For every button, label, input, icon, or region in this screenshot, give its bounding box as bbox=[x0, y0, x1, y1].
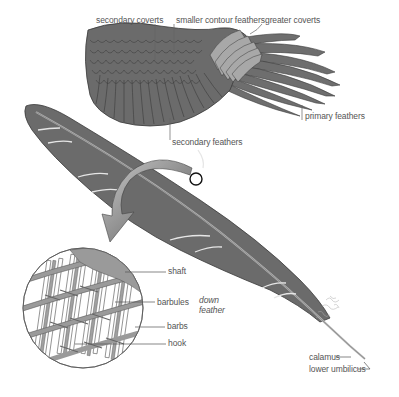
label-greater-coverts: greater coverts bbox=[265, 15, 320, 25]
label-barbs: barbs bbox=[167, 321, 188, 331]
label-down-feather-line1: down bbox=[199, 295, 219, 305]
label-barbules: barbules bbox=[157, 297, 189, 307]
label-down-feather-line2: feather bbox=[199, 305, 225, 315]
label-calamus: calamus bbox=[309, 352, 340, 362]
label-secondary-coverts: secondary coverts bbox=[96, 15, 163, 25]
barb-detail-magnifier bbox=[18, 246, 150, 369]
feather-anatomy-diagram bbox=[0, 0, 399, 397]
label-hook: hook bbox=[168, 338, 186, 348]
magnify-target-circle-icon bbox=[190, 173, 202, 185]
label-lower-umbilicus: lower umbilicus bbox=[309, 364, 366, 374]
label-primary-feathers: primary feathers bbox=[305, 111, 365, 121]
label-shaft: shaft bbox=[168, 266, 186, 276]
label-secondary-feathers: secondary feathers bbox=[172, 137, 243, 147]
label-smaller-contour-feathers: smaller contour feathers bbox=[176, 15, 265, 25]
